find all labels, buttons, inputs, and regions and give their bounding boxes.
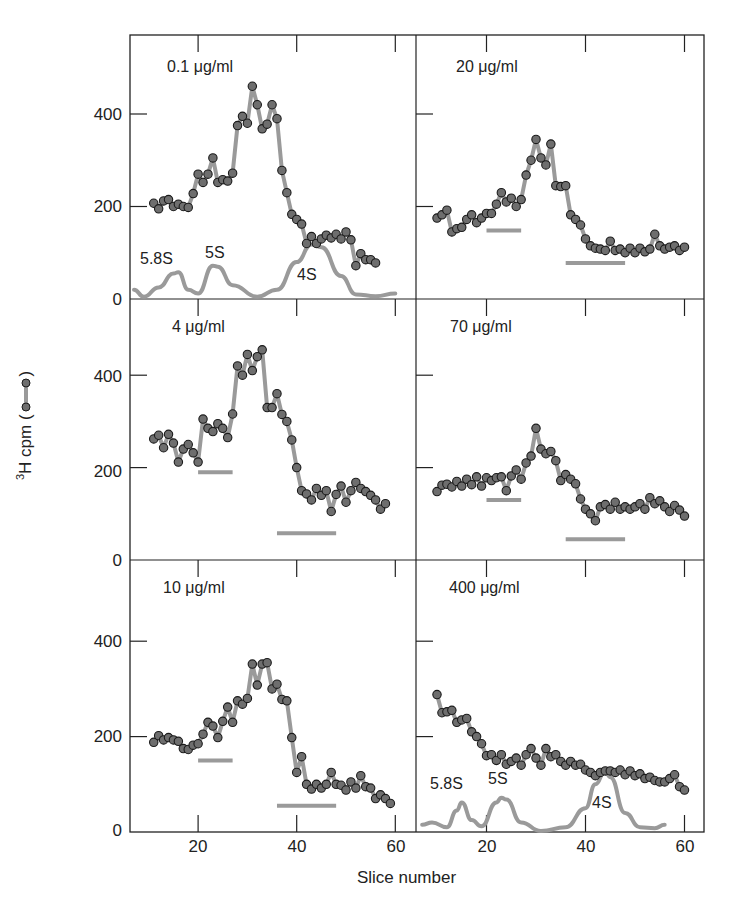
data-point: [601, 246, 609, 254]
x-axis-label: Slice number: [0, 868, 733, 888]
data-point: [542, 744, 550, 752]
data-point: [263, 658, 271, 666]
data-point: [497, 751, 505, 759]
data-point: [159, 444, 167, 452]
data-point: [552, 456, 560, 464]
data-point: [537, 761, 545, 769]
data-point: [458, 223, 466, 231]
data-point: [248, 660, 256, 668]
data-point: [228, 410, 236, 418]
data-point: [288, 733, 296, 741]
data-point: [297, 220, 305, 228]
data-point: [228, 718, 236, 726]
xtick-right-40: 40: [566, 838, 606, 855]
data-point: [268, 403, 276, 411]
data-point: [307, 496, 315, 504]
data-point: [322, 780, 330, 788]
y-axis-label-text: H cpm (: [16, 414, 35, 474]
data-point: [517, 195, 525, 203]
panel-title-3: 70 μg/ml: [450, 318, 512, 336]
data-point: [591, 517, 599, 525]
data-point: [680, 512, 688, 520]
data-point: [169, 439, 177, 447]
data-point: [547, 447, 555, 455]
data-point: [463, 714, 471, 722]
y-axis-label: 3H cpm (): [14, 371, 36, 480]
data-point: [342, 228, 350, 236]
data-point: [542, 161, 550, 169]
data-point: [497, 188, 505, 196]
data-point: [641, 505, 649, 513]
data-point: [273, 680, 281, 688]
data-point: [497, 473, 505, 481]
data-point: [527, 744, 535, 752]
data-point: [194, 458, 202, 466]
data-point: [547, 140, 555, 148]
legend-line-dot-icon: [20, 378, 32, 412]
data-point: [342, 786, 350, 794]
data-point: [243, 694, 251, 702]
panel-title-2: 4 μg/ml: [172, 318, 225, 336]
data-point: [448, 706, 456, 714]
data-point: [243, 350, 251, 358]
data-point: [214, 733, 222, 741]
data-point: [204, 170, 212, 178]
panel-title-0: 0.1 μg/ml: [167, 58, 233, 76]
data-point: [189, 189, 197, 197]
data-point: [562, 181, 570, 189]
xtick-right-60: 60: [665, 838, 705, 855]
data-point: [386, 799, 394, 807]
data-point: [337, 482, 345, 490]
data-point: [366, 784, 374, 792]
peak-label-5-8s-bottom: 5.8S: [430, 775, 463, 793]
data-point: [646, 245, 654, 253]
data-point: [293, 463, 301, 471]
figure: 400 200 0 400 200 0 400 200 0 20 40 60 2…: [0, 0, 733, 917]
marker-curve-0: [134, 244, 395, 296]
data-point: [502, 487, 510, 495]
data-point: [576, 221, 584, 229]
data-point: [209, 722, 217, 730]
data-point: [532, 135, 540, 143]
y-axis-label-end: ): [16, 371, 35, 377]
data-point: [233, 362, 241, 370]
xtick-left-20: 20: [178, 838, 218, 855]
data-point: [189, 449, 197, 457]
ytick-row1-400: 400: [82, 368, 122, 385]
data-point: [228, 169, 236, 177]
data-point: [238, 371, 246, 379]
data-point: [347, 487, 355, 495]
data-point: [273, 114, 281, 122]
plot-canvas: [0, 0, 733, 917]
data-point: [347, 236, 355, 244]
data-point: [532, 424, 540, 432]
data-point: [507, 194, 515, 202]
data-point: [680, 786, 688, 794]
trace-line-1: [437, 139, 685, 252]
data-point: [472, 473, 480, 481]
panel-title-5: 400 μg/ml: [449, 579, 520, 597]
data-point: [327, 507, 335, 515]
data-point: [670, 771, 678, 779]
data-point: [477, 482, 485, 490]
data-point: [492, 200, 500, 208]
peak-label-4s-top: 4S: [297, 266, 317, 284]
ytick-row1-200: 200: [82, 463, 122, 480]
data-point: [293, 768, 301, 776]
data-point: [527, 452, 535, 460]
data-point: [223, 433, 231, 441]
data-point: [283, 417, 291, 425]
data-point: [512, 466, 520, 474]
data-point: [651, 230, 659, 238]
data-point: [342, 498, 350, 506]
xtick-left-60: 60: [376, 838, 416, 855]
data-point: [288, 436, 296, 444]
data-point: [297, 752, 305, 760]
ytick-row1-0: 0: [82, 552, 122, 569]
data-point: [164, 430, 172, 438]
data-point: [258, 346, 266, 354]
data-point: [517, 761, 525, 769]
data-point: [248, 82, 256, 90]
data-point: [278, 166, 286, 174]
data-point: [154, 205, 162, 213]
